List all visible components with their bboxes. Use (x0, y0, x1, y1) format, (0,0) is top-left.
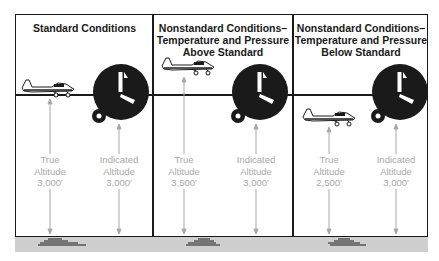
indicated-altitude-label: Indicated Altitude 3,000′ (95, 154, 143, 189)
label-line: Altitude (95, 166, 143, 178)
label-line: Indicated (232, 154, 280, 166)
altitude-value: 3,000′ (372, 177, 420, 189)
label-line: Altitude (232, 166, 280, 178)
true-altitude-label: True Altitude 3,500′ (162, 154, 206, 189)
label-line: Indicated (95, 154, 143, 166)
label-line: Altitude (307, 166, 351, 178)
altitude-value: 3,500′ (162, 177, 206, 189)
altitude-value: 3,000′ (95, 177, 143, 189)
altitude-value: 2,500′ (307, 177, 351, 189)
label-line: Altitude (162, 166, 206, 178)
indicated-altitude-label: Indicated Altitude 3,000′ (372, 154, 420, 189)
altitude-value: 3,000′ (232, 177, 280, 189)
altitude-value: 3,000′ (28, 177, 72, 189)
true-altitude-label: True Altitude 2,500′ (307, 154, 351, 189)
label-line: True (162, 154, 206, 166)
label-line: Altitude (372, 166, 420, 178)
label-line: True (307, 154, 351, 166)
label-line: Indicated (372, 154, 420, 166)
label-line: Altitude (28, 166, 72, 178)
indicated-altitude-label: Indicated Altitude 3,000′ (232, 154, 280, 189)
ground-marks (0, 0, 439, 261)
label-line: True (28, 154, 72, 166)
true-altitude-label: True Altitude 3,000′ (28, 154, 72, 189)
